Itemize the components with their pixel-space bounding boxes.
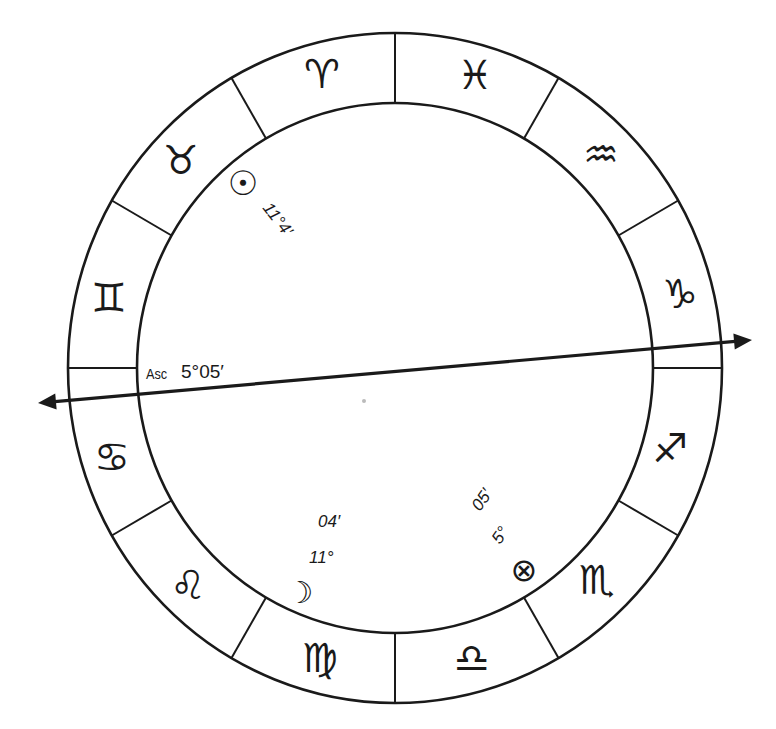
moon-minute-label: 04′ bbox=[318, 512, 341, 531]
center-dot bbox=[362, 399, 366, 403]
sign-leo-icon: ♌︎ bbox=[170, 562, 206, 608]
sign-pisces-icon: ♓︎ bbox=[457, 52, 493, 98]
sign-sagittarius-icon: ♐︎ bbox=[652, 425, 688, 471]
ascendant-axis: Asc5°05′ bbox=[38, 334, 752, 410]
sign-divider bbox=[232, 78, 267, 139]
sign-taurus-icon: ♉︎ bbox=[163, 137, 199, 183]
sign-capricorn-icon: ♑︎ bbox=[662, 271, 698, 317]
astrology-chart-wheel: ♈︎♓︎♒︎♑︎♐︎♏︎♎︎♍︎♌︎♋︎♊︎♉︎ Asc5°05′ ☉︎11°4… bbox=[0, 0, 776, 729]
part-of-fortune-icon: ⊗︎ bbox=[511, 551, 538, 589]
sign-gemini-icon: ♊︎ bbox=[91, 275, 127, 321]
sign-divider bbox=[524, 78, 559, 139]
sign-scorpio-icon: ♏︎ bbox=[579, 557, 615, 603]
arrowhead-left-icon bbox=[38, 393, 57, 409]
arrowhead-right-icon bbox=[733, 334, 752, 350]
sign-libra-icon: ♎︎ bbox=[454, 635, 490, 681]
part-of-fortune-degree-label: 5° bbox=[488, 523, 513, 547]
sign-divider bbox=[618, 201, 678, 236]
moon-icon: ☽︎ bbox=[287, 575, 314, 610]
ascendant-label: Asc bbox=[146, 365, 167, 382]
sign-divider bbox=[112, 201, 172, 236]
sign-aries-icon: ♈︎ bbox=[304, 51, 340, 97]
planet-placements: ☉︎11°4′☽︎11°04′⊗︎5°05′ bbox=[228, 163, 538, 610]
sun-degree-label: 11°4′ bbox=[259, 199, 297, 241]
sign-aquarius-icon: ♒︎ bbox=[583, 131, 619, 177]
sign-virgo-icon: ♍︎ bbox=[302, 635, 338, 681]
sign-cancer-icon: ♋︎ bbox=[94, 434, 130, 480]
sign-divider bbox=[112, 501, 172, 536]
moon-degree-label: 11° bbox=[309, 548, 334, 567]
sign-divider bbox=[618, 501, 678, 536]
sign-divider bbox=[524, 597, 559, 658]
ascendant-value: 5°05′ bbox=[181, 361, 224, 382]
sign-divider bbox=[232, 597, 267, 658]
part-of-fortune-minute-label: 05′ bbox=[468, 485, 497, 515]
sun-icon: ☉︎ bbox=[228, 163, 258, 203]
